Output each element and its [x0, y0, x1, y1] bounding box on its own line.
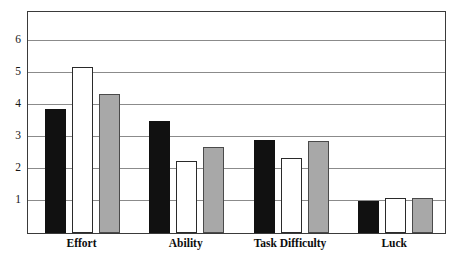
bar-task-difficulty-series-2 — [281, 158, 302, 233]
y-tick-label-5: 5 — [0, 66, 21, 78]
gridline-6 — [28, 40, 445, 41]
bar-ability-series-3 — [203, 147, 224, 233]
category-label-effort: Effort — [22, 238, 142, 250]
bar-ability-series-1 — [149, 121, 170, 233]
y-tick-label-2: 2 — [0, 162, 21, 174]
bar-luck-series-3 — [412, 198, 433, 233]
y-axis: 6 5 4 3 2 1 — [0, 0, 27, 253]
y-tick-label-3: 3 — [0, 130, 21, 142]
category-label-ability: Ability — [126, 238, 246, 250]
bar-chart: 6 5 4 3 2 1 Effort Ability Task Difficul… — [0, 0, 454, 253]
bar-task-difficulty-series-3 — [308, 141, 329, 233]
bar-luck-series-2 — [385, 198, 406, 233]
category-label-luck: Luck — [334, 238, 454, 250]
bar-effort-series-3 — [99, 94, 120, 233]
y-tick-label-6: 6 — [0, 34, 21, 46]
bar-ability-series-2 — [176, 161, 197, 233]
bar-luck-series-1 — [358, 201, 379, 233]
bar-task-difficulty-series-1 — [254, 140, 275, 233]
category-label-task-difficulty: Task Difficulty — [230, 238, 350, 250]
bar-effort-series-1 — [45, 109, 66, 233]
y-tick-label-4: 4 — [0, 98, 21, 110]
y-tick-label-1: 1 — [0, 194, 21, 206]
bar-effort-series-2 — [72, 67, 93, 233]
plot-area — [27, 11, 446, 234]
